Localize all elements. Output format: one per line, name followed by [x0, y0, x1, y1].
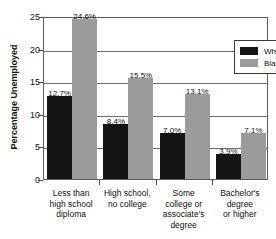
y-tick-label: 15 — [16, 77, 40, 87]
category-label-line: diploma — [50, 209, 93, 220]
bar — [103, 124, 128, 179]
category-label: Bachelor'sdegreeor higher — [220, 188, 259, 220]
y-tick-label: 5 — [16, 142, 40, 152]
bar — [185, 94, 210, 179]
bar — [128, 78, 153, 179]
legend-label-white: White — [264, 47, 276, 56]
legend-swatch-white — [240, 47, 258, 55]
category-label-line: Bachelor's — [220, 188, 259, 199]
category-label-line: or higher — [220, 209, 259, 220]
category-label: High school,no college — [104, 188, 151, 209]
unemployment-bar-chart: Percentage Unemployed 0510152025 12.7%24… — [0, 0, 276, 239]
legend-label-black: Black — [264, 59, 276, 68]
y-tick-mark — [38, 180, 43, 181]
legend-item-white[interactable]: White — [240, 45, 276, 57]
legend[interactable]: White Black — [234, 40, 276, 74]
category-label-line: Some — [163, 188, 205, 199]
category-label-line: degree — [220, 199, 259, 210]
category-label: Somecollege orassociate'sdegree — [163, 188, 205, 230]
y-axis-title: Percentage Unemployed — [9, 17, 19, 177]
bar-value-label: 13.1% — [186, 87, 209, 96]
bar — [160, 133, 185, 179]
legend-item-black[interactable]: Black — [240, 57, 276, 69]
bar-value-label: 8.4% — [107, 117, 125, 126]
y-tick-label: 20 — [16, 45, 40, 55]
category-label: Less thanhigh schooldiploma — [50, 188, 93, 220]
category-label-line: high school — [50, 199, 93, 210]
x-tick-mark — [212, 180, 213, 185]
bar-value-label: 7.1% — [244, 126, 262, 135]
legend-swatch-black — [240, 59, 258, 67]
x-tick-mark — [99, 180, 100, 185]
bar-value-label: 15.5% — [130, 71, 153, 80]
bar — [47, 96, 72, 179]
y-tick-label: 10 — [16, 110, 40, 120]
x-tick-mark — [156, 180, 157, 185]
y-tick-label: 0 — [16, 175, 40, 185]
bar — [72, 19, 97, 179]
bar-value-label: 3.9% — [219, 147, 237, 156]
bar — [241, 133, 266, 179]
bar-value-label: 12.7% — [48, 89, 71, 98]
category-label-line: associate's — [163, 209, 205, 220]
category-label-line: no college — [104, 199, 151, 210]
category-label-line: High school, — [104, 188, 151, 199]
plot-area: 12.7%24.6%8.4%15.5%7.0%13.1%3.9%7.1% Whi… — [43, 17, 268, 180]
category-label-line: college or — [163, 199, 205, 210]
category-label-line: Less than — [50, 188, 93, 199]
bar-value-label: 24.6% — [73, 12, 96, 21]
bar — [216, 154, 241, 179]
category-label-line: degree — [163, 220, 205, 231]
y-tick-label: 25 — [16, 12, 40, 22]
bar-value-label: 7.0% — [163, 126, 181, 135]
